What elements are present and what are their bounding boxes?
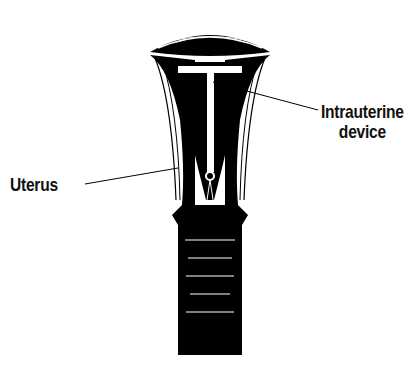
uterus-illustration <box>0 0 412 384</box>
label-line: Intrauterine <box>321 102 404 122</box>
diagram-canvas: Intrauterine device Uterus <box>0 0 412 384</box>
fundus-muscle <box>150 35 270 56</box>
label-intrauterine-device: Intrauterine device <box>321 102 404 142</box>
label-line: Uterus <box>10 175 58 195</box>
cervix <box>172 205 248 355</box>
label-uterus: Uterus <box>10 175 58 195</box>
iud-stem <box>207 70 214 172</box>
label-line: device <box>321 122 404 142</box>
